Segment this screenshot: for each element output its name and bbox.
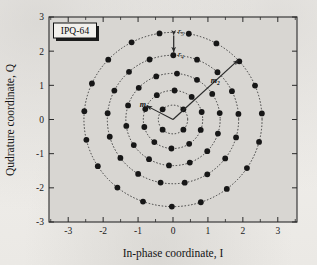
- constellation-point: [151, 139, 157, 145]
- constellation-point: [233, 134, 239, 140]
- constellation-figure: -3-2-10123-3-2-10123 r5 r4 m1 m2 IPQ-64 …: [0, 0, 317, 265]
- constellation-point: [131, 142, 137, 148]
- constellation-point: [160, 127, 166, 133]
- constellation-point: [198, 127, 204, 133]
- constellation-point: [169, 146, 175, 152]
- constellation-point: [180, 127, 186, 133]
- constellation-point: [111, 88, 117, 94]
- constellation-point: [194, 57, 200, 63]
- constellation-point: [166, 163, 172, 169]
- x-tick-label: 2: [240, 226, 245, 236]
- constellation-point: [107, 134, 113, 140]
- x-tick-label: -3: [64, 226, 72, 236]
- constellation-point: [186, 31, 192, 37]
- badge: IPQ-64: [54, 23, 100, 41]
- constellation-point: [229, 88, 235, 94]
- x-tick-label: 1: [206, 226, 211, 236]
- constellation-point: [105, 110, 111, 116]
- constellation-point: [204, 148, 210, 154]
- constellation-point: [209, 91, 215, 97]
- constellation-point: [215, 69, 221, 75]
- constellation-point: [222, 156, 228, 162]
- constellation-point: [153, 73, 159, 79]
- constellation-point: [236, 111, 242, 117]
- constellation-point: [105, 57, 111, 63]
- constellation-point: [256, 139, 262, 145]
- y-tick-label: 0: [39, 115, 44, 125]
- constellation-point: [213, 41, 219, 47]
- constellation-point: [157, 30, 163, 36]
- y-tick-label: 2: [39, 47, 44, 57]
- y-tick-label: -2: [36, 183, 44, 193]
- constellation-point: [141, 124, 147, 130]
- constellation-point: [174, 71, 180, 77]
- y-axis-label: Qudrature coordinate, Q: [4, 63, 17, 176]
- constellation-point: [215, 131, 221, 137]
- figure-svg: -3-2-10123-3-2-10123 r5 r4 m1 m2 IPQ-64 …: [0, 0, 317, 265]
- constellation-point: [189, 94, 195, 100]
- x-tick-label: 0: [171, 226, 176, 236]
- constellation-point: [217, 110, 223, 116]
- x-tick-label: -2: [99, 226, 107, 236]
- constellation-point: [186, 141, 192, 147]
- constellation-point: [252, 83, 258, 89]
- x-axis-label: In-phase coordinate, I: [123, 247, 224, 260]
- constellation-point: [259, 111, 265, 117]
- y-tick-label: -3: [36, 217, 44, 227]
- constellation-point: [129, 39, 135, 45]
- x-tick-label: -1: [134, 226, 142, 236]
- constellation-point: [95, 163, 101, 169]
- constellation-point: [114, 185, 120, 191]
- constellation-point: [158, 180, 164, 186]
- constellation-point: [170, 52, 176, 58]
- constellation-point: [117, 155, 123, 161]
- badge-label: IPQ-64: [61, 26, 90, 36]
- constellation-point: [146, 156, 152, 162]
- constellation-point: [125, 103, 131, 109]
- y-tick-label: 3: [39, 12, 44, 22]
- constellation-point: [224, 186, 230, 192]
- constellation-point: [160, 106, 166, 112]
- constellation-point: [147, 57, 153, 63]
- x-tick-label: 3: [275, 226, 280, 236]
- constellation-point: [81, 108, 87, 114]
- y-tick-label: -1: [36, 149, 44, 159]
- constellation-point: [140, 199, 146, 205]
- constellation-point: [204, 171, 210, 177]
- constellation-point: [123, 123, 129, 129]
- constellation-point: [198, 199, 204, 205]
- constellation-point: [182, 180, 188, 186]
- constellation-point: [187, 160, 193, 166]
- constellation-point: [89, 81, 95, 87]
- constellation-point: [136, 85, 142, 91]
- constellation-point: [83, 137, 89, 143]
- constellation-point: [244, 165, 250, 171]
- y-tick-label: 1: [39, 81, 44, 91]
- constellation-point: [169, 204, 175, 210]
- constellation-point: [126, 69, 132, 75]
- constellation-point: [135, 171, 141, 177]
- constellation-point: [172, 88, 178, 94]
- constellation-point: [194, 77, 200, 83]
- constellation-point: [199, 109, 205, 115]
- constellation-point: [154, 92, 160, 98]
